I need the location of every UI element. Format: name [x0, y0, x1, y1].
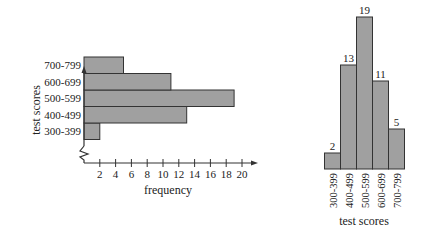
category-label: 300-399 — [44, 125, 81, 137]
vertical-bar-chart: 21319115 300-399400-499500-599600-699700… — [325, 4, 405, 228]
tick-label: 20 — [237, 168, 249, 180]
category-label: 600-699 — [376, 173, 387, 208]
tick-label: 6 — [129, 168, 135, 180]
bar-600-699 — [84, 74, 171, 91]
data-label: 2 — [330, 140, 336, 152]
bar-500-599 — [357, 17, 373, 169]
tick-label: 16 — [205, 168, 217, 180]
tick-label: 14 — [189, 168, 201, 180]
histogram-figure: test scores 300-399400-499500-599600-699… — [0, 0, 424, 231]
y-axis-label: test scores — [29, 85, 43, 135]
data-label: 5 — [394, 116, 400, 128]
x-axis — [84, 161, 258, 166]
bar-700-799 — [84, 57, 124, 74]
bar-300-399 — [84, 123, 100, 140]
axis-break-icon — [80, 146, 88, 163]
category-label: 400-499 — [344, 173, 355, 208]
tick-label: 10 — [158, 168, 170, 180]
category-label: 500-599 — [360, 173, 371, 208]
category-label: 600-699 — [44, 76, 81, 88]
bar-500-599 — [84, 90, 234, 107]
tick-label: 18 — [221, 168, 233, 180]
tick-label: 12 — [173, 168, 184, 180]
arrow-right-icon — [251, 161, 258, 166]
data-label: 11 — [375, 68, 386, 80]
x-axis-label: test scores — [339, 214, 389, 228]
tick-label: 4 — [113, 168, 119, 180]
tick-label: 2 — [97, 168, 103, 180]
category-label: 700-799 — [44, 59, 81, 71]
charts-canvas: test scores 300-399400-499500-599600-699… — [0, 0, 424, 231]
bar-400-499 — [341, 65, 357, 169]
data-label: 19 — [359, 4, 371, 16]
category-label: 700-799 — [392, 173, 403, 208]
tick-label: 8 — [144, 168, 150, 180]
bar-400-499 — [84, 107, 187, 124]
category-label: 500-599 — [44, 92, 81, 104]
category-label: 300-399 — [328, 173, 339, 208]
horizontal-bar-chart: test scores 300-399400-499500-599600-699… — [29, 57, 258, 197]
category-label: 400-499 — [44, 109, 81, 121]
data-label: 13 — [343, 52, 355, 64]
bar-600-699 — [373, 81, 389, 169]
bar-700-799 — [389, 129, 405, 169]
x-axis-label: frequency — [144, 183, 192, 197]
bar-300-399 — [325, 153, 341, 169]
